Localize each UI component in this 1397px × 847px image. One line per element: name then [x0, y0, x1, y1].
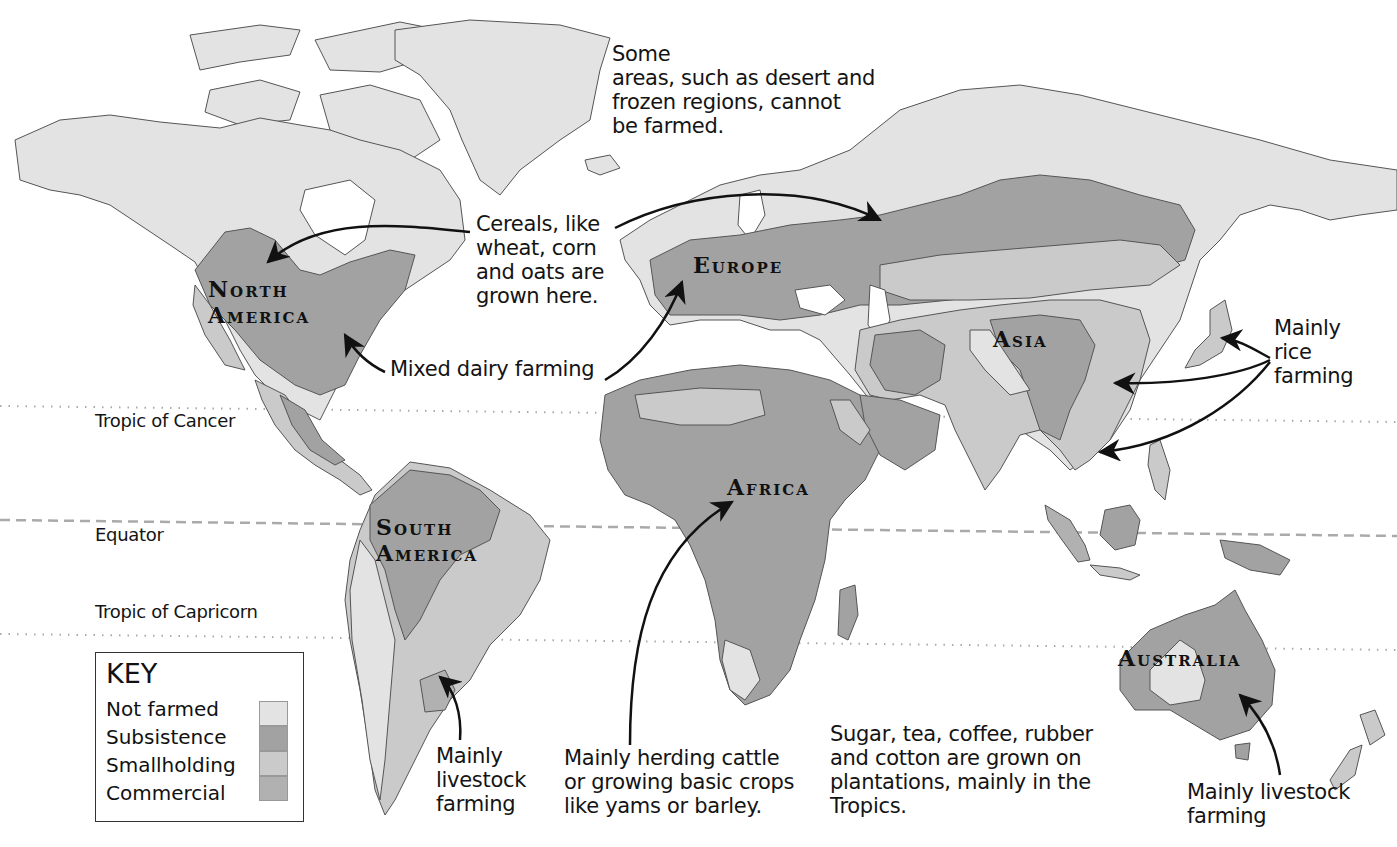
key-label-commercial: Commercial: [106, 779, 226, 807]
map-key: KEY Not farmed Subsistence Smallholding …: [95, 652, 304, 822]
philippines: [1148, 440, 1170, 500]
sahara-smallholding: [635, 388, 765, 425]
continent-label-asia: Asia: [993, 326, 1048, 352]
tropic-of-capricorn-label: Tropic of Capricorn: [95, 601, 258, 622]
key-label-not-farmed: Not farmed: [106, 695, 219, 723]
continent-label-australia: Australia: [1118, 645, 1241, 671]
japan: [1185, 300, 1232, 368]
annotation-cereals: Cereals, like wheat, corn and oats are g…: [476, 212, 604, 308]
continent-label-europe: Europe: [693, 252, 783, 278]
annotation-sa-livestock: Mainly livestock farming: [436, 744, 526, 816]
annotation-not-farmed-note: Some areas, such as desert and frozen re…: [612, 42, 875, 138]
continent-label-south-america: SouthAmerica: [376, 514, 478, 566]
key-swatch-commercial: [259, 776, 288, 801]
annotation-africa-herding: Mainly herding cattle or growing basic c…: [564, 746, 794, 818]
key-swatch-subsistence: [259, 726, 288, 751]
key-swatch-smallholding: [259, 751, 288, 776]
madagascar: [838, 585, 858, 640]
annotation-plantations: Sugar, tea, coffee, rubber and cotton ar…: [830, 722, 1093, 818]
continent-label-africa: Africa: [727, 474, 810, 500]
new-guinea: [1220, 540, 1290, 575]
arrow-rice-japan: [1222, 338, 1270, 358]
borneo: [1100, 505, 1140, 550]
key-label-subsistence: Subsistence: [106, 723, 227, 751]
new-zealand: [1330, 710, 1385, 790]
key-swatch-not-farmed: [259, 701, 288, 726]
java: [1090, 565, 1140, 580]
annotation-rice: Mainly rice farming: [1274, 316, 1353, 388]
tasmania: [1235, 743, 1250, 760]
tropic-of-cancer-label: Tropic of Cancer: [95, 410, 235, 431]
key-label-smallholding: Smallholding: [106, 751, 236, 779]
equator-label: Equator: [95, 524, 164, 545]
annotation-dairy: Mixed dairy farming: [390, 357, 594, 381]
sumatra: [1045, 505, 1090, 562]
iceland: [585, 155, 620, 175]
key-title: KEY: [106, 659, 157, 689]
annotation-aus-livestock: Mainly livestock farming: [1187, 780, 1350, 828]
continent-label-north-america: NorthAmerica: [208, 276, 310, 328]
